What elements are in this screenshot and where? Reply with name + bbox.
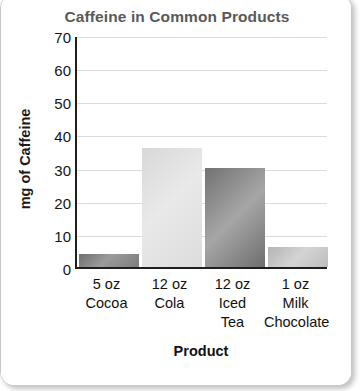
x-axis-tick-labels: 5 ozCocoa12 ozCola12 ozIcedTea1 ozMilkCh… xyxy=(75,275,327,337)
x-tick-label-line: Tea xyxy=(201,313,264,332)
y-tick-label: 30 xyxy=(37,163,71,178)
y-tick-label: 60 xyxy=(37,63,71,78)
x-tick-label: 12 ozIcedTea xyxy=(201,275,264,332)
plot-area xyxy=(75,37,327,269)
chart-title: Caffeine in Common Products xyxy=(1,8,351,26)
gridline xyxy=(77,70,327,71)
x-axis-title: Product xyxy=(75,343,327,359)
y-tick-label: 40 xyxy=(37,129,71,144)
bar-2 xyxy=(142,148,202,267)
y-tick-label: 10 xyxy=(37,229,71,244)
x-tick-label-line: Cocoa xyxy=(75,294,138,313)
chart-card-inner: Caffeine in Common Products mg of Caffei… xyxy=(1,0,351,385)
bar-1 xyxy=(79,254,139,267)
x-tick-label-line: 5 oz xyxy=(75,275,138,294)
y-tick-label: 50 xyxy=(37,96,71,111)
gridline xyxy=(77,236,327,237)
bar-3 xyxy=(205,168,265,267)
y-tick-label: 0 xyxy=(37,262,71,277)
y-tick-label: 20 xyxy=(37,196,71,211)
x-tick-label-line: 1 oz xyxy=(264,275,327,294)
gridline xyxy=(77,136,327,137)
bar-4 xyxy=(268,247,328,267)
y-tick-label: 70 xyxy=(37,30,71,45)
gridline xyxy=(77,170,327,171)
chart-card: Caffeine in Common Products mg of Caffei… xyxy=(0,0,352,386)
gridline xyxy=(77,103,327,104)
y-axis-tick-labels: 706050403020100 xyxy=(31,37,71,269)
x-tick-label-line: Chocolate xyxy=(264,313,327,332)
x-tick-label-line: 12 oz xyxy=(138,275,201,294)
x-tick-label-line: Iced xyxy=(201,294,264,313)
gridline xyxy=(77,203,327,204)
x-tick-label-line: Milk xyxy=(264,294,327,313)
x-tick-label: 5 ozCocoa xyxy=(75,275,138,313)
x-tick-label: 1 ozMilkChocolate xyxy=(264,275,327,332)
x-tick-label-line: 12 oz xyxy=(201,275,264,294)
x-tick-label-line: Cola xyxy=(138,294,201,313)
gridline xyxy=(77,37,327,38)
x-tick-label: 12 ozCola xyxy=(138,275,201,313)
